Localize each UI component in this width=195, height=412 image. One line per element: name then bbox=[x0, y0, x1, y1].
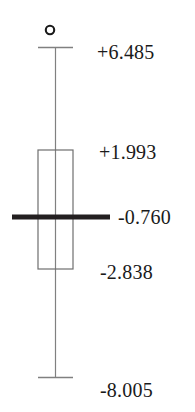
outlier-point-icon bbox=[46, 26, 54, 34]
label-upper-quartile: +1.993 bbox=[99, 142, 156, 162]
label-median: -0.760 bbox=[118, 207, 171, 227]
boxplot-figure: +6.485 +1.993 -0.760 -2.838 -8.005 bbox=[0, 0, 195, 412]
label-lower-quartile: -2.838 bbox=[100, 262, 153, 282]
label-maximum: +6.485 bbox=[97, 42, 154, 62]
label-minimum: -8.005 bbox=[100, 380, 153, 400]
median-bar bbox=[12, 215, 110, 220]
